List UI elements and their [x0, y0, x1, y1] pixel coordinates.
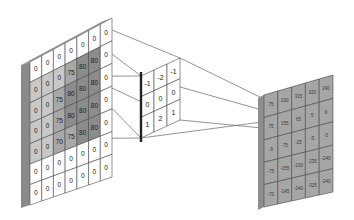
- cell-value: -240: [294, 186, 304, 191]
- grid-cell: -240: [292, 175, 306, 201]
- cell-value: 1: [146, 121, 150, 128]
- cell-value: 0: [46, 185, 50, 192]
- cell-value: 0: [93, 168, 97, 175]
- grid-cell: -5: [319, 122, 333, 149]
- grid-cell: -75: [264, 159, 278, 185]
- cell-value: 80: [79, 63, 87, 70]
- cell-value: 65: [296, 117, 302, 122]
- cell-value: 155: [281, 121, 289, 126]
- cell-value: 0: [34, 127, 38, 134]
- cell-value: 80: [91, 57, 99, 64]
- cell-value: 75: [268, 102, 274, 107]
- cell-value: 70: [56, 138, 64, 145]
- cell-value: 2: [159, 115, 163, 122]
- cell-value: 0: [146, 101, 150, 108]
- grid-cell: 0: [89, 136, 101, 163]
- cell-value: 320: [309, 90, 317, 95]
- cell-value: 0: [81, 172, 85, 179]
- grid-cell: 155: [278, 110, 292, 136]
- cell-value: 80: [79, 85, 87, 92]
- cell-value: -25: [295, 140, 302, 145]
- cell-value: 75: [67, 133, 75, 140]
- cell-value: 0: [104, 51, 108, 58]
- grid-cell: 315: [292, 83, 306, 110]
- grid-cell: -75: [278, 133, 292, 159]
- cell-value: -2: [157, 74, 163, 81]
- cell-value: 0: [69, 155, 73, 162]
- projection-line: [180, 58, 262, 98]
- cell-value: 0: [81, 41, 85, 48]
- output-feature-map-grid: 75230315320240751556550-5-75-25-5-5-75-1…: [258, 75, 333, 210]
- input-image-grid: 0000000000758080000758080800007580808000…: [21, 18, 112, 208]
- grid-cell: 65: [292, 106, 306, 133]
- cell-value: 1: [172, 109, 176, 116]
- cell-value: -5: [324, 133, 328, 138]
- cell-value: 0: [46, 164, 50, 171]
- cell-value: 80: [91, 79, 99, 86]
- cell-value: 75: [56, 117, 64, 124]
- projection-line: [180, 120, 262, 128]
- grid-cell: 75: [264, 114, 278, 140]
- grid-cell: 0: [77, 163, 89, 189]
- cell-value: 0: [57, 74, 61, 81]
- cell-value: 0: [104, 119, 108, 126]
- convolution-diagram: 0000000000758080000758080800007580808000…: [0, 0, 354, 220]
- cell-value: 240: [322, 86, 330, 91]
- cell-value: 80: [91, 102, 99, 109]
- cell-value: 0: [34, 86, 38, 93]
- cell-value: 0: [93, 35, 97, 42]
- grid-cell: 240: [319, 75, 333, 102]
- cell-value: -235: [308, 159, 318, 164]
- cell-value: 315: [295, 94, 303, 99]
- cell-value: 230: [281, 98, 289, 103]
- cell-value: 0: [34, 189, 38, 196]
- cell-value: 0: [172, 89, 176, 96]
- cell-value: 0: [57, 181, 61, 188]
- cell-value: 75: [56, 96, 64, 103]
- cell-value: 0: [104, 164, 108, 171]
- grid-cell: -230: [292, 152, 306, 178]
- cell-value: 0: [57, 53, 61, 60]
- cell-value: 80: [79, 107, 87, 114]
- cell-value: 0: [69, 47, 73, 54]
- cell-value: -75: [281, 143, 288, 148]
- cell-value: 0: [46, 143, 50, 150]
- grid-cell: 230: [278, 87, 292, 114]
- projection-line: [112, 30, 180, 58]
- cell-value: 80: [91, 124, 99, 131]
- cell-value: -1: [144, 80, 150, 87]
- cell-value: 0: [34, 148, 38, 155]
- grid-cell: 5: [305, 102, 319, 129]
- cell-value: 80: [67, 112, 75, 119]
- cell-value: 0: [46, 80, 50, 87]
- grid-side-face: [21, 62, 30, 208]
- grid-cell: -240: [319, 145, 333, 172]
- cell-value: 0: [81, 150, 85, 157]
- cell-value: -70: [268, 192, 275, 197]
- cell-value: 0: [34, 107, 38, 114]
- cell-value: 0: [34, 65, 38, 72]
- cell-value: -5: [269, 147, 273, 152]
- grid-cell: 0: [30, 180, 42, 205]
- cell-value: -240: [322, 156, 332, 161]
- cell-value: 80: [67, 90, 75, 97]
- grid-side-face: [258, 95, 264, 210]
- cell-value: 75: [268, 124, 274, 129]
- grid-cell: -325: [305, 172, 319, 198]
- cell-value: -75: [268, 169, 275, 174]
- cell-value: -1: [170, 68, 176, 75]
- cell-value: -155: [280, 166, 290, 171]
- grid-cell: 320: [305, 79, 319, 106]
- cell-value: 0: [69, 177, 73, 184]
- grid-cell: -235: [305, 149, 319, 175]
- grid-cell: 0: [65, 167, 77, 193]
- grid-cell: 0: [100, 154, 112, 181]
- grid-cell: 0: [100, 132, 112, 159]
- cell-value: -145: [280, 189, 290, 194]
- grid-cell: -5: [305, 125, 319, 152]
- grid-cell: 75: [264, 91, 278, 117]
- grid-cell: -5: [264, 136, 278, 162]
- cell-value: 0: [46, 59, 50, 66]
- cell-value: 0: [104, 141, 108, 148]
- grid-cell: -240: [319, 169, 333, 195]
